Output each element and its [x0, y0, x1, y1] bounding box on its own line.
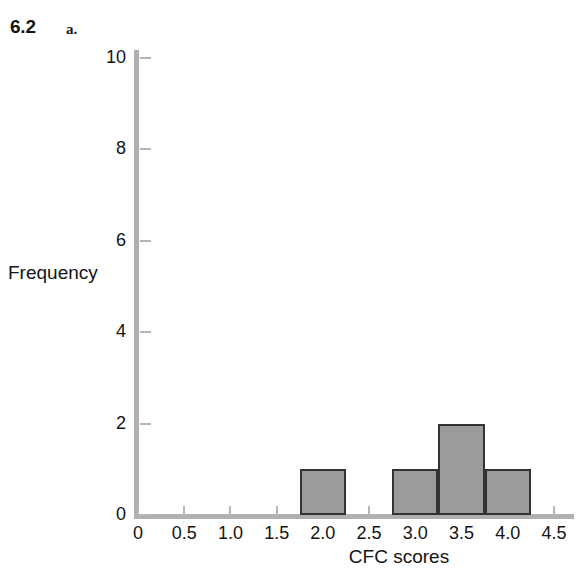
- histogram-bar: [392, 469, 438, 515]
- y-tick-label: 6: [86, 230, 126, 251]
- histogram-bar: [438, 424, 484, 515]
- y-tick-label: 2: [86, 413, 126, 434]
- x-axis-title-text: CFC scores: [349, 546, 449, 567]
- plot-area: [138, 58, 554, 515]
- x-tick-label: 4.5: [524, 523, 584, 544]
- y-tick-label: 8: [86, 138, 126, 159]
- histogram-bar: [300, 469, 346, 515]
- y-tick-label: 0: [86, 504, 126, 525]
- histogram-bar: [485, 469, 531, 515]
- y-axis-title: Frequency: [8, 262, 98, 284]
- y-tick-label: 10: [86, 47, 126, 68]
- figure-part-letter: a.: [66, 21, 77, 38]
- figure-number: 6.2: [10, 16, 36, 38]
- figure-container: 6.2 a. Frequency 0246810 00.51.01.52.02.…: [0, 0, 588, 575]
- x-axis-title: CFC scores: [0, 546, 588, 568]
- y-tick-label: 4: [86, 321, 126, 342]
